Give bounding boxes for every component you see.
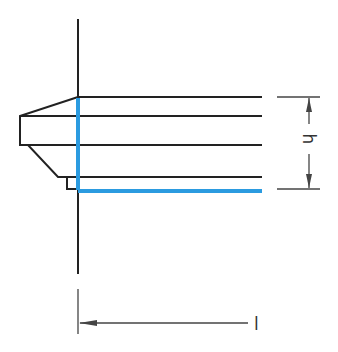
arrow-up-icon bbox=[306, 98, 312, 112]
arrow-down-icon bbox=[306, 174, 312, 188]
height-label: h bbox=[299, 134, 319, 145]
length-label: l bbox=[254, 314, 259, 334]
length-dimension bbox=[78, 289, 248, 334]
arrow-left-icon bbox=[79, 320, 97, 326]
cornice-profile-diagram: h l bbox=[0, 0, 338, 352]
profile-outline bbox=[20, 97, 78, 189]
